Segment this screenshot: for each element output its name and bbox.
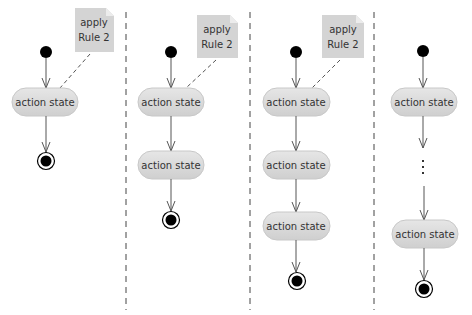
transition-arrow	[292, 240, 300, 272]
action-state: action state	[263, 212, 330, 240]
note-line-1: apply	[203, 24, 231, 35]
transition-arrow	[420, 186, 428, 220]
final-node-icon	[38, 153, 55, 170]
transition-arrow	[292, 58, 300, 88]
panel-2: apply Rule 2 action state action state	[138, 15, 238, 229]
action-state-label: action state	[394, 97, 453, 108]
final-node-icon	[416, 281, 433, 298]
action-state-label: action state	[141, 97, 200, 108]
note-anchor-line	[60, 54, 90, 88]
transition-arrow	[419, 116, 427, 148]
action-state-label: action state	[266, 97, 325, 108]
action-state: action state	[391, 88, 457, 116]
panel-1: apply Rule 2 action state	[12, 8, 114, 170]
transition-arrow	[419, 57, 427, 88]
note-apply-rule-2: apply Rule 2	[75, 8, 114, 52]
transition-arrow	[292, 179, 300, 212]
initial-node-icon	[290, 46, 302, 58]
action-state-label: action state	[141, 160, 200, 171]
transition-arrow	[167, 116, 175, 151]
panel-3: apply Rule 2 action state action state a…	[263, 15, 364, 290]
note-apply-rule-2: apply Rule 2	[197, 15, 238, 58]
note-line-2: Rule 2	[327, 39, 358, 50]
initial-node-icon	[40, 46, 52, 58]
note-anchor-line	[312, 60, 340, 88]
action-state-label: action state	[266, 221, 325, 232]
action-state: action state	[263, 151, 330, 179]
action-state-label: action state	[395, 229, 454, 240]
note-anchor-line	[186, 60, 216, 88]
transition-arrow	[167, 58, 175, 88]
transition-arrow	[420, 248, 428, 280]
initial-node-icon	[417, 45, 429, 57]
transition-arrow	[42, 116, 50, 152]
note-line-2: Rule 2	[78, 32, 109, 43]
final-node-icon	[289, 273, 306, 290]
action-state: action state	[392, 220, 458, 248]
initial-node-icon	[165, 46, 177, 58]
ellipsis-dots	[422, 160, 424, 174]
panel-4: action state action state	[391, 45, 458, 298]
note-line-1: apply	[80, 17, 108, 28]
note-line-2: Rule 2	[201, 39, 232, 50]
final-node-icon	[163, 212, 180, 229]
action-state: action state	[263, 88, 330, 116]
activity-diagram: apply Rule 2 action state apply	[0, 0, 472, 315]
note-line-1: apply	[329, 24, 357, 35]
transition-arrow	[292, 116, 300, 151]
action-state-label: action state	[266, 160, 325, 171]
action-state-label: action state	[15, 97, 74, 108]
action-state: action state	[12, 88, 78, 116]
transition-arrow	[42, 58, 50, 88]
transition-arrow	[167, 179, 175, 211]
action-state: action state	[138, 151, 204, 179]
action-state: action state	[138, 88, 204, 116]
note-apply-rule-2: apply Rule 2	[322, 15, 364, 58]
